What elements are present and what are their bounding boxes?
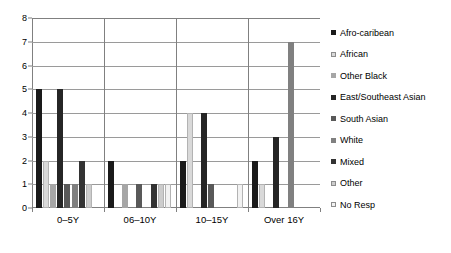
x-tick-label: Over 16Y — [248, 214, 320, 225]
x-tick-mark — [104, 208, 105, 212]
legend-label: White — [340, 135, 363, 145]
x-tick-label: 0–5Y — [32, 214, 104, 225]
bar — [108, 161, 114, 209]
legend-swatch-icon — [331, 73, 336, 78]
y-tick-label: 1 — [22, 180, 27, 189]
chart-container: 012345678 0–5Y06–10Y10–15YOver 16Y Afro-… — [0, 0, 451, 253]
bar — [252, 161, 258, 209]
plot-area: 012345678 0–5Y06–10Y10–15YOver 16Y — [32, 18, 320, 208]
legend-label: Other Black — [340, 71, 387, 81]
legend-label: East/Southeast Asian — [340, 92, 426, 102]
legend-item[interactable]: Afro-caribean — [331, 22, 449, 44]
y-tick-label: 8 — [22, 14, 27, 23]
x-tick-label: 06–10Y — [104, 214, 176, 225]
bar — [136, 184, 142, 208]
y-tick-label: 6 — [22, 61, 27, 70]
bar — [57, 89, 63, 208]
legend-item[interactable]: White — [331, 130, 449, 152]
bar-group — [104, 18, 176, 208]
bar — [36, 89, 42, 208]
bar — [259, 184, 265, 208]
legend-swatch-icon — [331, 30, 336, 35]
bar — [158, 184, 164, 208]
legend-swatch-icon — [331, 95, 336, 100]
bar — [50, 184, 56, 208]
legend-swatch-icon — [331, 52, 336, 57]
legend-label: Other — [340, 178, 363, 188]
bar-group — [32, 18, 104, 208]
bar — [273, 137, 279, 208]
legend-item[interactable]: No Resp — [331, 194, 449, 216]
legend-label: Afro-caribean — [340, 28, 394, 38]
y-tick-label: 3 — [22, 132, 27, 141]
legend-swatch-icon — [331, 181, 336, 186]
bar — [237, 184, 243, 208]
y-tick-label: 2 — [22, 156, 27, 165]
legend-label: South Asian — [340, 114, 388, 124]
y-tick-label: 7 — [22, 37, 27, 46]
bar — [64, 184, 70, 208]
bar — [151, 184, 157, 208]
legend-item[interactable]: South Asian — [331, 108, 449, 130]
bar — [208, 184, 214, 208]
bar — [187, 113, 193, 208]
bar — [288, 42, 294, 208]
legend-swatch-icon — [331, 138, 336, 143]
bar — [79, 161, 85, 209]
y-tick-label: 0 — [22, 204, 27, 213]
legend-label: African — [340, 49, 368, 59]
bar — [180, 161, 186, 209]
y-tick-label: 4 — [22, 109, 27, 118]
legend-label: No Resp — [340, 200, 375, 210]
y-tick-label: 5 — [22, 85, 27, 94]
x-tick-mark — [176, 208, 177, 212]
legend-swatch-icon — [331, 116, 336, 121]
bar — [201, 113, 207, 208]
x-tick-mark — [32, 208, 33, 212]
legend-swatch-icon — [331, 159, 336, 164]
legend-label: Mixed — [340, 157, 364, 167]
legend-swatch-icon — [331, 202, 336, 207]
bar — [72, 184, 78, 208]
bar-group — [176, 18, 248, 208]
legend-item[interactable]: East/Southeast Asian — [331, 87, 449, 109]
bar — [86, 184, 92, 208]
x-tick-mark — [248, 208, 249, 212]
x-tick-mark — [320, 208, 321, 212]
bar — [43, 161, 49, 209]
legend: Afro-caribeanAfricanOther BlackEast/Sout… — [331, 22, 449, 216]
bar-group — [248, 18, 320, 208]
legend-item[interactable]: Other — [331, 173, 449, 195]
legend-item[interactable]: Other Black — [331, 65, 449, 87]
bar — [122, 184, 128, 208]
bar — [165, 184, 171, 208]
x-tick-label: 10–15Y — [176, 214, 248, 225]
legend-item[interactable]: Mixed — [331, 151, 449, 173]
legend-item[interactable]: African — [331, 44, 449, 66]
